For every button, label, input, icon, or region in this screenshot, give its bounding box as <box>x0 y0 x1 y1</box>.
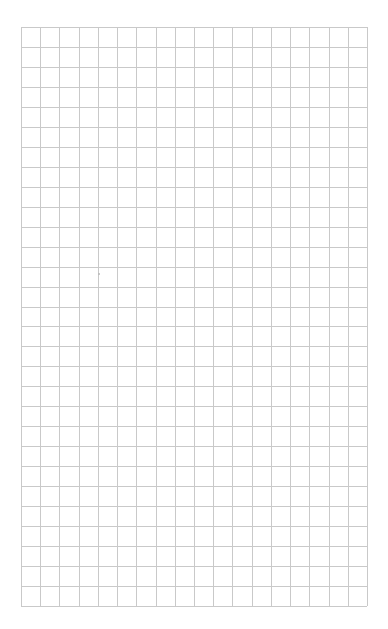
grid-paper <box>21 27 367 606</box>
grid-lines <box>21 27 368 607</box>
speck-mark <box>98 273 100 275</box>
